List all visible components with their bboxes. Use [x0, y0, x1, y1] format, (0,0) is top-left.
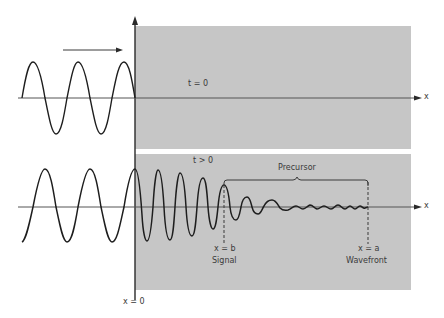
- precursor-label: Precursor: [278, 163, 316, 172]
- medium-panel-top: [135, 26, 411, 149]
- x-axis-top-arrowhead-icon: [414, 96, 422, 101]
- time-label-top: t = 0: [188, 79, 208, 88]
- signal-position-label: x = b: [214, 244, 236, 253]
- propagation-arrowhead-icon: [116, 48, 123, 53]
- wavefront-position-label: x = a: [358, 244, 379, 253]
- wavefront-label: Wavefront: [346, 256, 387, 265]
- signal-label: Signal: [212, 256, 237, 265]
- axis-label-top: x: [424, 92, 429, 101]
- axis-label-bottom: x: [424, 201, 429, 210]
- boundary-label: x = 0: [123, 297, 145, 306]
- medium-panel-bottom: [135, 154, 411, 290]
- boundary-axis-arrowhead-icon: [132, 16, 138, 25]
- time-label-bottom: t > 0: [193, 156, 213, 165]
- diagram-canvas: [0, 0, 444, 318]
- x-axis-bottom-arrowhead-icon: [414, 205, 422, 210]
